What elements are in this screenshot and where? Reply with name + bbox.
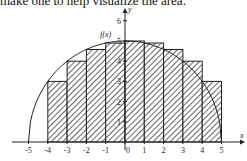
rectangle-bar	[144, 43, 163, 142]
x-tick-label: 1	[142, 146, 146, 155]
rectangle-bar	[183, 61, 202, 142]
x-axis-arrow-icon	[240, 140, 245, 145]
x-tick-label: -4	[44, 146, 51, 155]
x-tick-label: 4	[200, 146, 204, 155]
rectangle-bar	[86, 49, 105, 142]
x-tick-label: 5	[220, 146, 224, 155]
rectangle-bar	[106, 43, 125, 142]
y-tick-label: 6	[117, 17, 121, 26]
x-tick-label: 0	[126, 146, 130, 155]
x-tick-label: -3	[64, 146, 71, 155]
rectangle-bar	[48, 81, 67, 142]
y-tick-label: 1	[117, 118, 121, 127]
function-label: f(x)	[100, 30, 111, 39]
y-tick-label: 4	[117, 57, 121, 66]
x-tick-label: -1	[102, 146, 109, 155]
x-tick-label: -5	[25, 146, 32, 155]
y-tick-label: 2	[117, 98, 121, 107]
x-tick-label: 3	[181, 146, 185, 155]
y-tick-label: 3	[117, 77, 121, 86]
riemann-sum-chart: x y f(x) -5-4-3-2-1012345 123456	[0, 0, 247, 161]
rectangle-bar	[202, 81, 221, 142]
x-tick-label: -2	[83, 146, 90, 155]
x-tick-label: 2	[162, 146, 166, 155]
rectangle-bar	[164, 49, 183, 142]
y-axis-arrow-icon	[123, 8, 128, 13]
rectangle-bar	[125, 41, 144, 142]
y-axis-label: y	[127, 5, 132, 14]
rectangle-bar	[67, 61, 86, 142]
x-axis-label: x	[239, 131, 244, 140]
y-tick-label: 5	[117, 37, 121, 46]
